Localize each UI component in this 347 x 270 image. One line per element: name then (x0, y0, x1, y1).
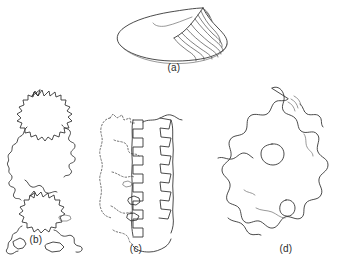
outline-b-mid-connector (25, 180, 57, 193)
outline-d-lower-left-lobe (228, 218, 261, 235)
outline-c-right-column (159, 118, 171, 219)
panel-c-label: (c) (114, 243, 158, 254)
outline-b-lower-mass (19, 191, 65, 233)
outline-b-top-lobe (17, 90, 72, 141)
outline-c-middle-column (133, 120, 143, 237)
outline-c-dashed-left (100, 118, 112, 218)
shell-hinge-line (153, 17, 192, 26)
outline-c-dashed-inner-3 (111, 206, 133, 213)
outline-b-lower-tail-right (54, 230, 82, 252)
shell-umbo (174, 8, 203, 38)
shell-outline (117, 8, 227, 61)
outline-d-interior-contour-1 (304, 134, 313, 156)
outline-b-left-flank (7, 127, 27, 200)
outline-c-fleck-3 (123, 181, 132, 187)
outline-c-dashed-bottom (113, 230, 132, 244)
panel-b-label: (b) (14, 234, 58, 245)
outline-d-perimeter (222, 87, 328, 228)
outline-c-dashed-top-cap (110, 114, 136, 123)
shell-growth-ridges (174, 11, 223, 61)
lobed-amoeboid-drawing-d (200, 82, 346, 268)
outline-d-inclusion-ovoid (280, 200, 295, 216)
outline-c-right-outer-wall (171, 120, 173, 233)
outline-d-upper-right-notch (300, 104, 323, 127)
outline-d-arc-marks (288, 96, 301, 111)
shell-ventral-margin (122, 44, 227, 64)
outline-c-fleck-1 (128, 196, 140, 205)
outline-c-dashed-inner-2 (112, 172, 134, 177)
panel-a-label: (a) (152, 62, 196, 73)
outline-c-dashed-inner (114, 140, 139, 156)
outline-d-interior-contour-3 (244, 190, 255, 195)
outline-d-left-bay (218, 153, 253, 159)
outline-d-vacuole (261, 144, 284, 165)
figure-plate: (a) (b) (0, 0, 347, 270)
panel-d-label: (d) (264, 243, 308, 254)
panel-d-lobed-amoeboid (200, 82, 346, 268)
